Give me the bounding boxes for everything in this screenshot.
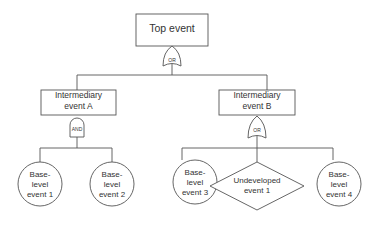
- label-line: Base-: [317, 170, 361, 180]
- label-line: event 3: [173, 188, 217, 198]
- label-line: event A: [41, 101, 116, 112]
- label-line: Intermediary: [219, 90, 295, 101]
- intermediary-event-b-label: Intermediary event B: [219, 90, 295, 111]
- base-event-1-label: Base- level event 1: [18, 170, 62, 200]
- label-line: Base-: [90, 170, 134, 180]
- label-line: level: [173, 178, 217, 188]
- label-line: Base-: [173, 168, 217, 178]
- label-line: event 1: [18, 190, 62, 200]
- label-line: event B: [219, 101, 295, 112]
- and-gate-label: AND: [69, 126, 85, 132]
- label-line: event 2: [90, 190, 134, 200]
- label-line: Intermediary: [41, 90, 116, 101]
- label-line: level: [18, 180, 62, 190]
- label-line: Undeveloped: [220, 176, 294, 186]
- base-event-2-label: Base- level event 2: [90, 170, 134, 200]
- label-line: event 4: [317, 190, 361, 200]
- undeveloped-event-label: Undeveloped event 1: [220, 176, 294, 196]
- top-gate-label: OR: [163, 57, 181, 63]
- label-line: level: [317, 180, 361, 190]
- intermediary-event-a-label: Intermediary event A: [41, 90, 116, 111]
- base-event-3-label: Base- level event 3: [173, 168, 217, 198]
- label-line: level: [90, 180, 134, 190]
- top-event-label: Top event: [136, 22, 208, 35]
- label-line: Base-: [18, 170, 62, 180]
- or-gate-b-label: OR: [248, 127, 266, 133]
- base-event-4-label: Base- level event 4: [317, 170, 361, 200]
- label-line: event 1: [220, 186, 294, 196]
